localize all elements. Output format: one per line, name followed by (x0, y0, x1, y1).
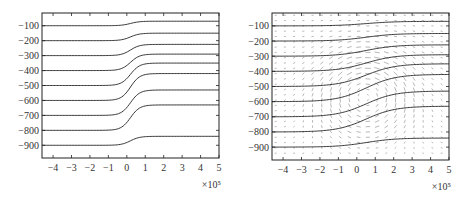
quiver-arrow (423, 142, 424, 144)
quiver-arrow (329, 57, 333, 59)
quiver-arrow (422, 52, 424, 53)
quiver-arrow (422, 36, 424, 37)
quiver-arrow (394, 82, 397, 86)
quiver-arrow (338, 57, 342, 59)
quiver-arrow (367, 94, 369, 95)
x-tick-label: 1 (143, 162, 148, 173)
streamline (42, 74, 219, 101)
quiver-arrow (311, 62, 313, 64)
y-tick-label: −800 (18, 125, 39, 136)
quiver-arrow (384, 72, 389, 75)
quiver-arrow (357, 83, 361, 85)
quiver-arrow (348, 104, 350, 108)
quiver-arrow (320, 41, 323, 42)
quiver-arrow (329, 72, 332, 76)
quiver-arrow (312, 147, 313, 148)
quiver-arrow (311, 72, 313, 75)
y-tick-label: −900 (248, 142, 269, 153)
quiver-arrow (284, 126, 286, 127)
quiver-arrow (385, 120, 388, 123)
quiver-arrow (414, 152, 415, 153)
quiver-arrow (431, 68, 433, 70)
quiver-arrow (348, 88, 350, 92)
quiver-arrow (339, 131, 342, 133)
quiver-arrow (329, 41, 332, 42)
y-tick-label: −700 (18, 110, 39, 121)
quiver-arrow (403, 77, 406, 81)
quiver-arrow (441, 84, 443, 85)
quiver-arrow (284, 121, 286, 122)
quiver-arrow (432, 83, 434, 85)
quiver-arrow (356, 62, 362, 63)
quiver-arrow (312, 88, 313, 91)
quiver-arrow (312, 153, 313, 154)
quiver-arrow (441, 132, 443, 133)
quiver-arrow (357, 110, 360, 112)
x-multiplier-label: ×10⁵ (432, 181, 451, 192)
quiver-arrow (413, 46, 416, 47)
quiver-arrow (375, 137, 379, 138)
quiver-arrow (330, 87, 332, 92)
quiver-arrow (348, 137, 351, 138)
quiver-arrow (302, 78, 304, 80)
x-multiplier-label: ×10⁵ (202, 179, 221, 190)
quiver-arrow (293, 137, 295, 138)
quiver-arrow (358, 94, 359, 97)
quiver-arrow (311, 52, 313, 53)
y-tick-label: −100 (248, 20, 269, 31)
quiver-arrow (395, 147, 397, 149)
quiver-arrow (384, 41, 388, 42)
quiver-arrow (356, 126, 360, 127)
quiver-arrow (320, 62, 323, 64)
quiver-arrow (385, 147, 387, 148)
quiver-arrow (338, 41, 342, 42)
quiver-arrow (311, 57, 314, 59)
y-tick-label: −100 (18, 20, 39, 31)
quiver-arrow (423, 147, 424, 148)
quiver-arrow (413, 62, 416, 64)
quiver-arrow (422, 57, 424, 59)
quiver-arrow (403, 46, 406, 47)
quiver-arrow (432, 120, 433, 122)
quiver-arrow (320, 46, 323, 47)
quiver-arrow (423, 99, 424, 102)
x-tick-label: 4 (428, 164, 433, 175)
quiver-arrow (303, 147, 304, 148)
streamline (42, 105, 219, 130)
quiver-arrow (312, 77, 314, 80)
quiver-arrow (394, 136, 396, 138)
quiver-arrow (330, 109, 331, 113)
quiver-arrow (294, 110, 295, 112)
quiver-arrow (376, 142, 379, 143)
quiver-arrow (321, 87, 322, 91)
quiver-arrow (284, 94, 286, 95)
quiver-arrow (302, 47, 304, 48)
quiver-arrow (284, 63, 286, 64)
quiver-arrow (384, 62, 389, 64)
quiver-arrow (284, 105, 286, 106)
quiver-arrow (413, 72, 416, 75)
quiver-arrow (367, 100, 369, 101)
quiver-arrow (339, 120, 342, 123)
x-tick-label: 0 (354, 164, 359, 175)
quiver-arrow (441, 137, 443, 138)
left-streamline-plot: −4−3−2−1012345−100−200−300−400−500−600−7… (18, 13, 221, 190)
quiver-arrow (293, 142, 295, 143)
quiver-arrow (330, 77, 333, 81)
quiver-arrow (374, 67, 380, 69)
quiver-arrow (293, 68, 295, 69)
quiver-arrow (356, 47, 361, 48)
quiver-arrow (374, 62, 380, 63)
y-tick-label: −800 (248, 126, 269, 137)
quiver-arrow (395, 92, 396, 97)
quiver-arrow (422, 67, 424, 69)
quiver-arrow (275, 100, 277, 101)
quiver-arrow (339, 142, 341, 144)
quiver-arrow (385, 131, 388, 133)
quiver-arrow (404, 136, 405, 138)
quiver-arrow (422, 88, 423, 91)
right-quiver-streamline-plot: −4−3−2−1012345−100−200−300−400−500−600−7… (248, 13, 451, 192)
quiver-arrow (403, 57, 406, 59)
quiver-arrow (441, 57, 443, 58)
quiver-arrow (394, 114, 396, 118)
